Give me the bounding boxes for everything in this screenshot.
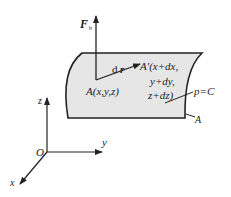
surface-name-label: A	[194, 114, 202, 125]
displacement-d: d	[112, 63, 118, 75]
point-a-prime-line3: z+dz)	[147, 89, 173, 102]
force-subscript: b	[89, 25, 92, 31]
axis-x-label: x	[9, 177, 15, 188]
displacement-r: r	[120, 63, 125, 75]
point-a-label: A(x,y,z)	[85, 85, 119, 98]
axis-y-label: y	[101, 136, 107, 148]
surface-name-leader	[186, 114, 195, 117]
origin-label: O	[36, 146, 44, 158]
axis-z-label: z	[37, 95, 42, 106]
equipotential-surface-diagram: F b d r A(x,y,z) A′(x+dx, y+dy, z+dz) p=…	[0, 0, 231, 197]
surface-eq-label: p=C	[193, 85, 215, 97]
point-a-prime-line1: A′(x+dx,	[139, 60, 178, 73]
point-a-prime-line2: y+dy,	[149, 75, 175, 87]
force-label: F	[79, 17, 88, 31]
